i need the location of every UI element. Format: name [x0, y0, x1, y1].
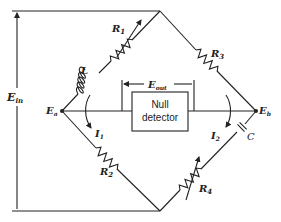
branch-ea-top	[62, 11, 160, 111]
c-label: C	[247, 131, 255, 142]
ein-label: Ein	[6, 91, 23, 105]
l-label: L	[80, 65, 88, 76]
r3-label: R3	[210, 48, 224, 61]
detector-label-line2: detector	[142, 112, 179, 123]
ea-label: Ea	[45, 105, 58, 117]
i1-label: I1	[94, 128, 104, 140]
node-ea	[60, 109, 64, 113]
r1-adjust-arrow	[117, 20, 141, 57]
bridge-circuit-diagram: Ein R1 L R3 R2	[0, 0, 281, 222]
branch-ea-bottom	[62, 111, 160, 211]
r4-label: R4	[198, 183, 212, 196]
eb-label: Eb	[258, 105, 271, 117]
branch-top-eb	[160, 11, 256, 111]
node-eb	[254, 109, 258, 113]
r4-adjust-arrow	[186, 157, 199, 200]
r1-label: R1	[111, 23, 125, 36]
eout-label: Eout	[147, 79, 167, 91]
r2-label: R2	[99, 166, 113, 179]
i2-label: I2	[210, 130, 220, 142]
branch-bottom-eb	[160, 111, 256, 211]
detector-label-line1: Null	[151, 99, 168, 110]
